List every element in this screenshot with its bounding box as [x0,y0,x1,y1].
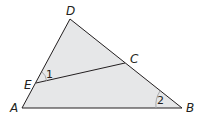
angle-2-label: 2 [157,94,164,107]
label-c: C [130,52,139,66]
label-d: D [66,4,75,18]
triangle-diagram: D C E A B 1 2 [0,0,203,120]
label-a: A [9,101,18,115]
label-e: E [24,78,32,92]
angle-1-label: 1 [46,68,53,81]
label-b: B [186,101,194,115]
